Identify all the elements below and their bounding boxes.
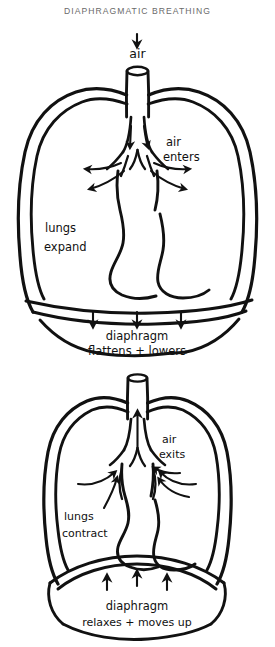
label-air-exits-line1: air: [162, 433, 177, 446]
label-air-enters-line2: enters: [163, 150, 200, 164]
label-lungs-contract-line1: lungs: [64, 510, 94, 523]
airflow-down-arrows-inhale: [130, 126, 148, 147]
label-air-enters-line1: air: [166, 135, 181, 149]
illustration-page: DIAPHRAGMATIC BREATHING: [0, 0, 275, 647]
label-diaphragm-exhale-line1: diaphragm: [106, 599, 168, 613]
diaphragm-up-arrows-exhale: [107, 572, 167, 590]
label-lungs-expand-line2: expand: [44, 240, 87, 254]
label-air-exits-line2: exits: [159, 448, 185, 461]
pleura-inhale-inner: [31, 99, 243, 299]
trachea-inhale: [126, 67, 148, 117]
air-exits-arrow-icon: [154, 468, 180, 473]
label-lungs-expand-line1: lungs: [45, 221, 76, 235]
lung-mediastinal-border-inhale: [110, 171, 209, 299]
inhalation-diagram: [18, 34, 256, 356]
label-air-inhale: air: [129, 46, 146, 61]
diaphragmatic-breathing-illustration: air air enters lungs expand diaphragm fl…: [0, 0, 275, 647]
label-diaphragm-inhale-line2: flattens + lowers: [88, 344, 186, 358]
label-diaphragm-exhale-line2: relaxes + moves up: [82, 616, 192, 629]
airflow-inward-arrows-exhale: [78, 472, 196, 508]
airflow-outward-arrows-inhale: [86, 163, 189, 189]
bronchial-tree-inhale: [107, 117, 168, 176]
label-diaphragm-inhale-line1: diaphragm: [106, 329, 168, 343]
label-lungs-contract-line2: contract: [62, 527, 108, 540]
